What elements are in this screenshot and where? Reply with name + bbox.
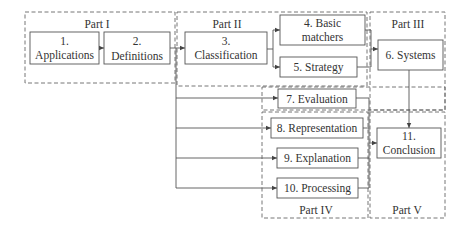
svg-text:7. Evaluation: 7. Evaluation [286, 93, 348, 105]
node-classification: 3. Classification [185, 32, 267, 64]
node-definitions: 2. Definitions [104, 32, 170, 64]
svg-text:10. Processing: 10. Processing [284, 182, 351, 195]
svg-text:8. Representation: 8. Representation [277, 122, 358, 135]
svg-text:11.: 11. [402, 130, 416, 142]
diagram-canvas: Part I Part II Part III Part IV Part V 1… [0, 0, 470, 232]
node-conclusion: 11. Conclusion [377, 128, 441, 158]
node-evaluation: 7. Evaluation [278, 89, 356, 108]
node-explanation: 9. Explanation [277, 148, 358, 168]
group-part5-label: Part V [392, 204, 422, 216]
node-representation: 8. Representation [271, 118, 363, 138]
svg-text:5. Strategy: 5. Strategy [294, 61, 344, 74]
svg-text:Classification: Classification [194, 49, 257, 61]
edge-7-11 [356, 98, 369, 188]
svg-text:matchers: matchers [302, 31, 344, 43]
svg-text:3.: 3. [222, 35, 231, 47]
node-applications: 1. Applications [30, 32, 99, 64]
svg-text:4. Basic: 4. Basic [304, 17, 341, 29]
svg-text:9. Explanation: 9. Explanation [284, 152, 351, 165]
node-processing: 10. Processing [277, 178, 358, 198]
node-basic-matchers: 4. Basic matchers [280, 15, 365, 45]
edge-3-4 [267, 30, 280, 49]
node-strategy: 5. Strategy [280, 57, 357, 77]
svg-text:Applications: Applications [35, 49, 94, 62]
svg-text:Definitions: Definitions [111, 50, 163, 62]
group-part1-label: Part I [84, 18, 109, 30]
svg-text:1.: 1. [60, 35, 69, 47]
group-part2-label: Part II [212, 18, 241, 30]
edge-3-5 [273, 49, 280, 67]
svg-text:6. Systems: 6. Systems [386, 49, 436, 62]
group-part3-label: Part III [392, 18, 425, 30]
node-systems: 6. Systems [378, 40, 443, 70]
group-part4-label: Part IV [299, 204, 333, 216]
svg-text:Conclusion: Conclusion [383, 144, 436, 156]
svg-text:2.: 2. [133, 35, 142, 47]
